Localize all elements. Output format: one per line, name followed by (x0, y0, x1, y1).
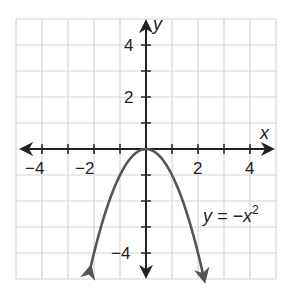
parabola-curve (91, 149, 205, 281)
y-tick-label-neg4: −4 (111, 244, 130, 263)
x-tick-label-neg2: −2 (75, 159, 94, 178)
x-axis-label: x (259, 123, 270, 143)
x-tick-label-4: 4 (245, 159, 254, 178)
equation-label: y = −x2 (201, 203, 259, 226)
y-tick-label-4: 4 (124, 36, 133, 55)
x-tick-label-2: 2 (193, 159, 202, 178)
y-tick-label-2: 2 (124, 88, 133, 107)
equation-superscript: 2 (252, 203, 259, 217)
parabola-chart: x y −4 −2 2 4 4 2 −4 y = −x2 (0, 0, 289, 292)
x-tick-label-neg4: −4 (25, 159, 44, 178)
equation-main: y = −x (201, 206, 253, 226)
y-axis-label: y (151, 14, 163, 34)
